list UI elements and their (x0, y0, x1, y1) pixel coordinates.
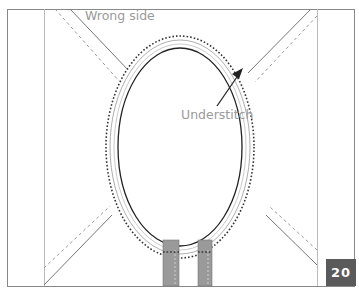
diagonal-bottom-right-dashed (270, 207, 317, 250)
wrong-side-label: Wrong side (85, 8, 155, 23)
strap-tab-right (198, 240, 212, 286)
understitch-label: Understitch (181, 107, 253, 122)
strap-tab-left (163, 240, 179, 286)
diagonal-bottom-left-dashed (44, 206, 110, 268)
diagonal-top-right-solid (248, 9, 311, 73)
sewing-diagram (0, 0, 359, 291)
step-number-badge: 20 (326, 259, 356, 286)
diagonal-bottom-left-solid (44, 215, 112, 285)
diagonal-top-right-dashed (255, 16, 317, 82)
diagonal-bottom-right-solid (266, 215, 317, 265)
